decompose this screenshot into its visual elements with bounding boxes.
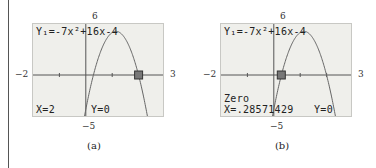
panel-b: 6 −2 3 −5 Y₁=-7x²+16x-4 Zero X=.28571429…	[188, 0, 376, 168]
xmin-label: −2	[203, 69, 216, 79]
calculator-screen-a: Y₁=-7x²+16x-4 X=2 Y=0	[32, 23, 164, 117]
xmin-label: −2	[15, 69, 28, 79]
ymax-label: 6	[280, 11, 286, 21]
ymax-label: 6	[92, 11, 98, 21]
equation-label: Y₁=-7x²+16x-4	[224, 26, 306, 37]
y-readout: Y=0	[314, 104, 333, 115]
trace-cursor-a	[135, 71, 143, 79]
xmax-label: 3	[170, 69, 176, 79]
ymin-label: −5	[82, 121, 95, 131]
panel-a: 6 −2 3 −5 Y₁=-7x²+16x-4 X=2 Y=0 (a)	[0, 0, 188, 168]
xmax-label: 3	[358, 69, 364, 79]
trace-cursor-b	[277, 71, 285, 79]
caption-b: (b)	[188, 140, 376, 151]
x-readout: X=2	[36, 104, 55, 115]
equation-label: Y₁=-7x²+16x-4	[36, 26, 118, 37]
y-readout: Y=0	[91, 104, 110, 115]
zero-status-label: Zero	[224, 93, 249, 104]
caption-a: (a)	[0, 140, 188, 151]
ymin-label: −5	[270, 121, 283, 131]
calculator-screen-b: Y₁=-7x²+16x-4 Zero X=.28571429 Y=0	[220, 23, 352, 117]
x-readout: X=.28571429	[224, 104, 294, 115]
